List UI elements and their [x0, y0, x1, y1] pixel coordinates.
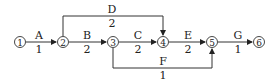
activity-B-name: B [83, 29, 91, 42]
activity-E-name: E [184, 29, 192, 42]
activity-C-name: C [134, 29, 142, 42]
activity-F-name: F [159, 55, 167, 68]
activity-E-duration: 2 [185, 43, 192, 56]
node-1-label: 1 [17, 38, 23, 48]
node-3-label: 3 [110, 38, 116, 48]
activity-C-duration: 2 [135, 43, 142, 56]
node-2-label: 2 [60, 38, 66, 48]
activity-D-duration: 2 [109, 17, 116, 30]
activity-F-duration: 1 [160, 69, 167, 81]
activity-A-duration: 1 [36, 43, 43, 56]
activity-G-name: G [234, 29, 243, 42]
network-svg: 1 2 3 4 5 6 A 1 B 2 C 2 D 2 E 2 F 1 G 1 [0, 0, 280, 81]
node-6-label: 6 [256, 38, 262, 48]
activity-A-name: A [34, 29, 44, 42]
network-diagram: 1 2 3 4 5 6 A 1 B 2 C 2 D 2 E 2 F 1 G 1 [0, 0, 280, 81]
node-4-label: 4 [160, 38, 166, 48]
activity-G-duration: 1 [235, 43, 242, 56]
node-5-label: 5 [209, 38, 215, 48]
activity-D-name: D [108, 3, 117, 16]
activity-B-duration: 2 [84, 43, 91, 56]
